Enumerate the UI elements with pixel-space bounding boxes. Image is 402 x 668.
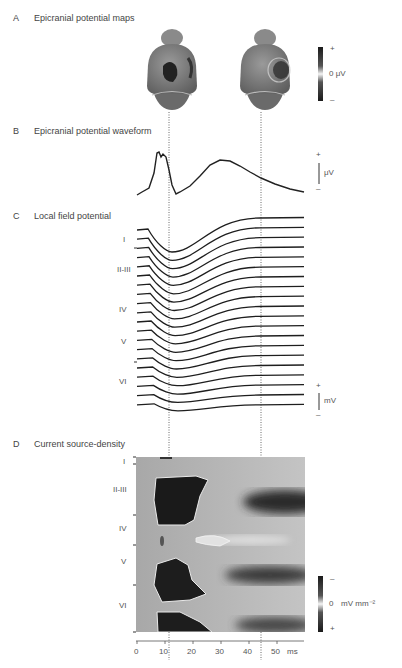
colorbar-d-unit: mV mm⁻²	[341, 599, 375, 608]
scalebar-uv-minus: –	[316, 184, 320, 193]
lfp-layer-iv: IV	[119, 305, 127, 314]
lfp-trace	[137, 375, 304, 386]
colorbar-a-label: 0 μV	[329, 69, 346, 78]
lfp-trace	[137, 404, 304, 411]
brain-map-1	[147, 29, 197, 110]
csd-layer-vi: VI	[119, 601, 127, 610]
x-axis-unit: ms	[287, 647, 298, 656]
x-tick-50: 50	[271, 647, 280, 656]
scalebar-uv-label: μV	[324, 168, 334, 177]
csd-layer-ii-iii: II-III	[113, 485, 127, 494]
lfp-layer-vi: VI	[119, 377, 127, 386]
csd-layer-v: V	[121, 557, 126, 566]
lfp-traces	[137, 218, 304, 411]
colorbar-a-minus: –	[330, 95, 334, 104]
colorbar-d-plus: +	[330, 624, 335, 633]
x-tick-10: 10	[159, 647, 168, 656]
lfp-trace	[137, 237, 304, 269]
lfp-trace	[137, 395, 304, 403]
colorbar-d-zero: 0	[329, 599, 333, 608]
csd-layer-i: I	[123, 457, 125, 466]
lfp-trace	[137, 355, 304, 369]
colorbar-d-minus: –	[330, 574, 334, 583]
x-tick-0: 0	[134, 647, 138, 656]
lfp-trace	[137, 247, 304, 277]
lfp-layer-v: V	[121, 337, 126, 346]
panel-b-title: Epicranial potential waveform	[34, 126, 152, 136]
panel-d-letter: D	[13, 439, 20, 449]
csd-heatmap	[133, 456, 327, 644]
scalebar-mv-label: mV	[324, 396, 336, 405]
csd-layer-iv: IV	[119, 524, 127, 533]
colorbar-a	[318, 47, 323, 101]
brain-map-2	[240, 29, 290, 110]
panel-c-title: Local field potential	[34, 211, 111, 221]
colorbar-d	[318, 576, 323, 632]
panel-c-letter: C	[13, 211, 20, 221]
colorbar-a-plus: +	[330, 44, 335, 53]
panel-d-title: Current source-density	[34, 439, 125, 449]
lfp-layer-ii-iii: II-III	[117, 265, 131, 274]
x-tick-40: 40	[243, 647, 252, 656]
scalebar-mv-plus: +	[316, 381, 321, 390]
lfp-layer-ticks	[134, 248, 137, 362]
x-tick-30: 30	[215, 647, 224, 656]
panel-b-letter: B	[13, 126, 19, 136]
figure-graphics	[0, 0, 402, 668]
lfp-trace	[137, 385, 304, 395]
scalebar-uv-plus: +	[316, 150, 321, 159]
x-tick-20: 20	[187, 647, 196, 656]
lfp-trace	[137, 336, 304, 353]
scalebar-mv-minus: –	[316, 410, 320, 419]
lfp-layer-i: I	[123, 235, 125, 244]
epicranial-waveform	[137, 152, 304, 195]
